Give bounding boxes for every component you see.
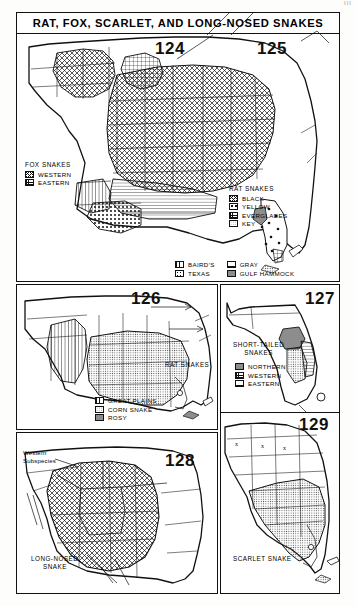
western-subspecies-label: Western Subspecies — [23, 449, 56, 465]
legend-short-tailed-title: SHORT-TAILED SNAKES — [233, 341, 284, 357]
legend-item: EASTERN — [235, 380, 286, 387]
swatch-horizontal-lines-icon — [227, 261, 236, 268]
swatch-grid-icon — [235, 372, 244, 379]
legend-label: WESTERN — [38, 171, 71, 178]
legend-short-tailed-title-line2: SNAKES — [244, 349, 273, 356]
isolated-record-mark: x — [261, 443, 264, 449]
scarlet-snake-label: SCARLET SNAKE — [233, 555, 292, 563]
legend-item: CORN SNAKE — [95, 406, 157, 413]
legend-label: NORTHERN — [248, 363, 286, 370]
panel-top-rat-fox-snakes: RAT, FOX, SCARLET, AND LONG-NOSED SNAKES — [16, 12, 340, 282]
swatch-solid-gray-icon — [227, 270, 236, 277]
swatch-grid-icon — [25, 179, 34, 186]
panel-number-124: 124 — [155, 39, 185, 59]
legend-label: EVERGLADES — [242, 212, 287, 219]
isolated-record-mark: x — [235, 441, 238, 447]
legend-label: CORN SNAKE — [108, 406, 152, 413]
swatch-stipple-icon — [95, 406, 104, 413]
legend-rat-snakes: RAT SNAKES BLACK YELLOW EVERGLADES KEY — [229, 185, 287, 229]
swatch-crosshatch-icon — [25, 171, 34, 178]
legend-short-tailed-snakes: NORTHERN WESTERN EASTERN — [235, 363, 286, 389]
legend-item: YELLOW — [229, 203, 287, 210]
legend-column-right: GRAY GULF HAMMOCK — [227, 261, 295, 277]
legend-short-tailed-title-line1: SHORT-TAILED — [233, 341, 284, 348]
panel-number-128: 128 — [165, 451, 195, 471]
legend-item: GRAY — [227, 261, 295, 268]
legend-label: GULF HAMMOCK — [240, 270, 295, 277]
legend-column-left: BAIRD'S TEXAS — [175, 261, 215, 277]
panel-129-map-artwork — [221, 413, 340, 594]
legend-item: GREAT PLAINS — [95, 397, 157, 404]
western-subspecies-line2: Subspecies — [23, 458, 56, 464]
legend-item: GULF HAMMOCK — [227, 270, 295, 277]
legend-label: YELLOW — [242, 203, 270, 210]
field-guide-range-map-page: III RAT, FOX, SCARLET, AND LONG-NOSED SN… — [0, 0, 356, 606]
long-nosed-snake-line2: SNAKE — [43, 563, 67, 571]
legend-rat-snakes-126: GREAT PLAINS CORN SNAKE ROSY — [95, 397, 157, 423]
legend-label: WESTERN — [248, 372, 281, 379]
swatch-crosshatch-icon — [229, 195, 238, 202]
panel-128-long-nosed-snake: 128 Western Subspecies LONG-NOSED SNAKE — [16, 432, 218, 594]
legend-item: ROSY — [95, 414, 157, 421]
long-nosed-snake-line1: LONG-NOSED — [31, 555, 78, 562]
panel-number-125: 125 — [257, 39, 287, 59]
panel-126-rat-snakes-label: RAT SNAKES — [165, 361, 209, 369]
panel-126-rat-snakes: 126 RAT SNAKES GREAT PLAINS CORN SNAKE R… — [16, 284, 218, 430]
panel-number-129: 129 — [299, 415, 329, 435]
legend-label: TEXAS — [188, 270, 210, 277]
legend-label: BAIRD'S — [188, 261, 215, 268]
legend-label: GRAY — [240, 261, 258, 268]
legend-fox-snakes: FOX SNAKES WESTERN EASTERN — [25, 161, 71, 188]
legend-item: EASTERN — [25, 179, 71, 186]
page-corner-mark: III — [344, 0, 352, 6]
legend-item: BAIRD'S — [175, 261, 215, 268]
swatch-solid-gray-icon — [95, 414, 104, 421]
long-nosed-snake-label: LONG-NOSED SNAKE — [31, 555, 78, 571]
legend-label: GREAT PLAINS — [108, 397, 157, 404]
swatch-dots-icon — [175, 270, 184, 277]
swatch-stipple-icon — [229, 220, 238, 227]
legend-label: ROSY — [108, 414, 127, 421]
legend-item: NORTHERN — [235, 363, 286, 370]
legend-item: TEXAS — [175, 270, 215, 277]
legend-rat-snakes-subspecies-bar: BAIRD'S TEXAS GRAY GULF HAMMOCK — [175, 261, 294, 277]
legend-item: EVERGLADES — [229, 212, 287, 219]
legend-fox-snakes-title: FOX SNAKES — [25, 161, 71, 168]
swatch-coarse-dots-icon — [229, 203, 238, 210]
legend-item: KEY — [229, 220, 287, 227]
legend-item: WESTERN — [25, 171, 71, 178]
panel-number-127: 127 — [305, 289, 335, 309]
legend-label: KEY — [242, 220, 255, 227]
swatch-vertical-lines-icon — [95, 397, 104, 404]
isolated-record-mark: x — [283, 445, 286, 451]
legend-label: EASTERN — [248, 380, 280, 387]
swatch-vertical-lines-icon — [175, 261, 184, 268]
swatch-horizontal-lines-icon — [235, 380, 244, 387]
legend-label: BLACK — [242, 195, 264, 202]
legend-item: WESTERN — [235, 372, 286, 379]
swatch-grid-icon — [229, 212, 238, 219]
panel-number-126: 126 — [131, 289, 161, 309]
legend-label: EASTERN — [38, 179, 70, 186]
panel-129-scarlet-snake: 129 x x x SCARLET SNAKE — [220, 412, 340, 594]
legend-item: BLACK — [229, 195, 287, 202]
western-subspecies-line1: Western — [23, 450, 47, 456]
legend-rat-snakes-title: RAT SNAKES — [229, 185, 287, 192]
panel-127-short-tailed-snakes: 127 SHORT-TAILED SNAKES NORTHERN WESTERN… — [220, 284, 340, 430]
swatch-solid-gray-icon — [235, 363, 244, 370]
